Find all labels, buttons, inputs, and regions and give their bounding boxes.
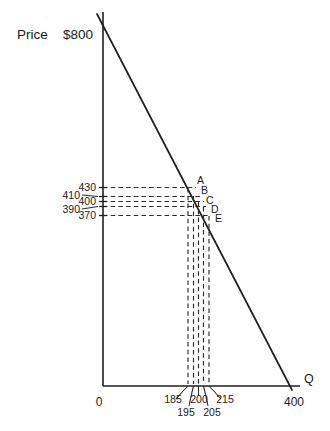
x-label-200: 200 bbox=[190, 393, 208, 405]
quantity-axis-symbol: Q bbox=[304, 372, 314, 386]
x-label-195: 195 bbox=[177, 406, 195, 418]
price-axis-title: Price bbox=[17, 27, 48, 42]
y-label-370: 370 bbox=[78, 209, 96, 221]
quantity-max-label: 400 bbox=[284, 395, 304, 409]
y-label-400: 400 bbox=[78, 195, 96, 207]
x-label-205: 205 bbox=[203, 406, 221, 418]
x-axis-labels: 185 200 215 195 205 bbox=[164, 393, 234, 418]
axis-titles: Price $800 0 400 Q bbox=[17, 27, 314, 409]
price-max-label: $800 bbox=[63, 27, 93, 42]
demand-curve-chart: 430 410 400 390 370 A B C D E 185 200 21… bbox=[0, 0, 330, 431]
chart-canvas: 430 410 400 390 370 A B C D E 185 200 21… bbox=[0, 0, 330, 431]
x-label-215: 215 bbox=[216, 393, 234, 405]
x-label-185: 185 bbox=[164, 393, 182, 405]
point-label-e: E bbox=[215, 212, 222, 224]
origin-label: 0 bbox=[96, 395, 103, 409]
y-axis-labels: 430 410 400 390 370 bbox=[62, 181, 96, 221]
y-label-430: 430 bbox=[78, 181, 96, 193]
axes-group bbox=[103, 12, 300, 386]
vertical-guide-lines bbox=[188, 188, 209, 384]
